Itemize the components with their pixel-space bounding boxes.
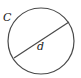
circle-diagram: C d xyxy=(0,0,81,78)
circumference-label: C xyxy=(3,11,12,24)
diameter-label: d xyxy=(37,40,44,53)
